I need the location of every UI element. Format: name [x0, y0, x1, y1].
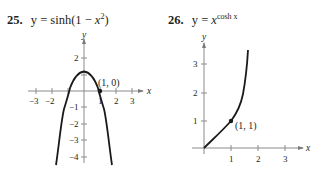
y-tick-label: −3 [69, 135, 79, 145]
point-label: (1, 1) [235, 120, 257, 132]
x-axis-label: x [146, 86, 152, 96]
point-marker [229, 119, 233, 123]
figure-canvas: y x −3 −2 1 2 3 2 −1 −2 −3 −4 (1, 0) y x… [0, 0, 322, 176]
graph-26: y x 1 2 3 1 2 3 (1, 1) [192, 32, 311, 164]
curve-x-pow-cosh [204, 50, 248, 148]
y-tick-label: 2 [193, 88, 198, 98]
y-axis-label: y [81, 30, 87, 40]
y-tick-label: 1 [193, 116, 198, 126]
y-tick-label: −4 [69, 152, 79, 162]
y-tick-label: −2 [69, 119, 79, 129]
x-tick-label: −2 [45, 96, 55, 106]
x-axis-label: x [305, 143, 311, 153]
x-tick-label: 2 [256, 154, 261, 164]
x-tick-label: 3 [130, 96, 135, 106]
point-label: (1, 0) [98, 77, 120, 89]
x-tick-label: 3 [283, 154, 288, 164]
y-tick-label: 2 [74, 53, 79, 63]
point-marker [98, 89, 102, 93]
y-tick-label: 3 [193, 59, 198, 69]
x-tick-label: −3 [29, 96, 39, 106]
y-tick-label: −1 [69, 102, 79, 112]
graph-25: y x −3 −2 1 2 3 2 −1 −2 −3 −4 (1, 0) [28, 30, 152, 165]
x-tick-label: 2 [114, 96, 119, 106]
y-axis-label: y [201, 32, 207, 42]
x-tick-label: 1 [229, 154, 234, 164]
